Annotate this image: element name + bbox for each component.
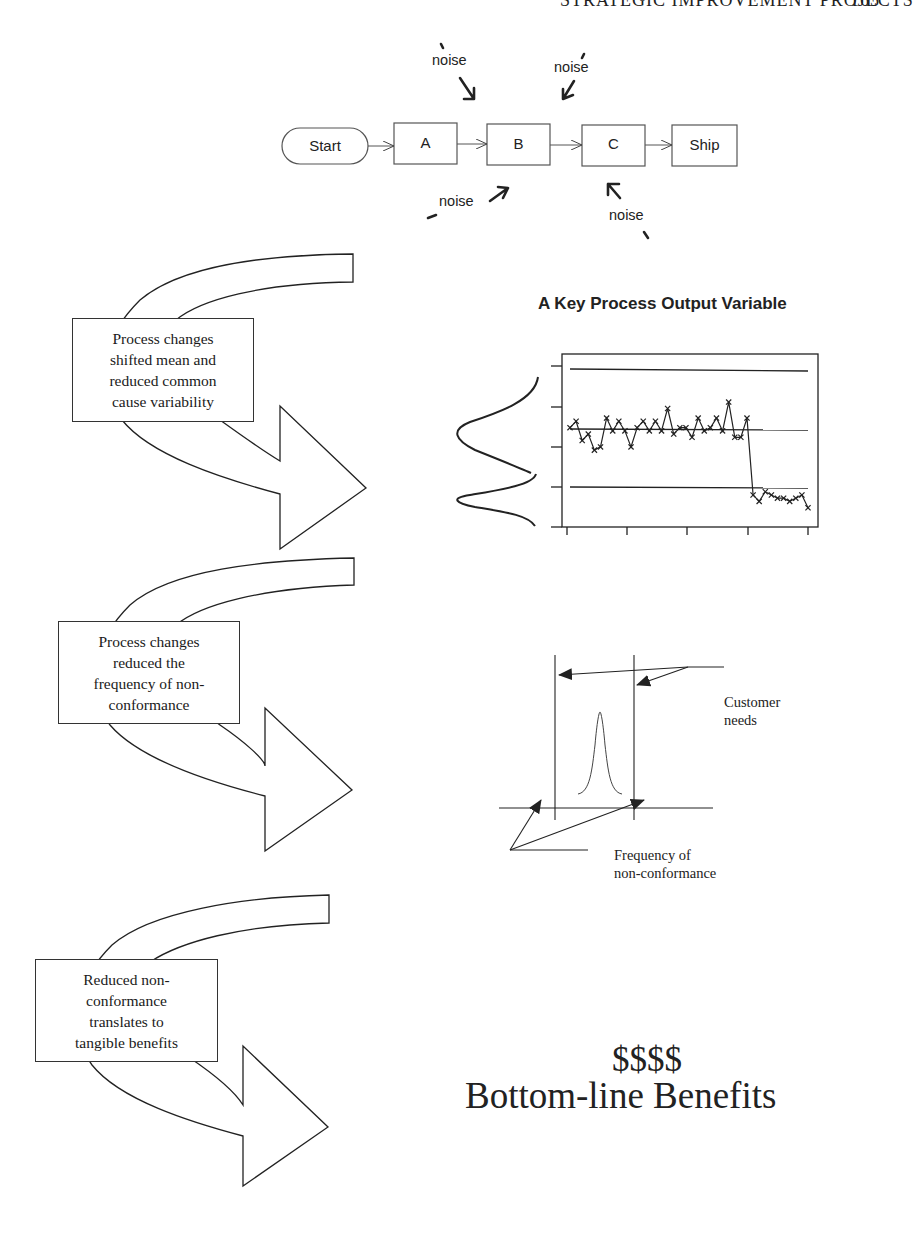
callout-line: Process changes xyxy=(109,328,216,349)
callout-line: reduced the xyxy=(93,652,204,673)
label-line: Customer xyxy=(724,693,780,711)
distribution-after-icon xyxy=(457,474,536,526)
x-axis-ticks xyxy=(567,527,808,535)
noise-label: noise xyxy=(439,193,474,209)
label-line: needs xyxy=(724,711,780,729)
distribution-before-icon xyxy=(457,377,538,473)
label-line: non-conformance xyxy=(614,864,716,882)
noise-label: noise xyxy=(609,207,644,223)
noise-label: noise xyxy=(432,52,467,68)
stage-1-callout: Process changes shifted mean and reduced… xyxy=(72,318,254,422)
customer-needs-label: Customer needs xyxy=(724,693,780,729)
callout-line: reduced common xyxy=(109,370,216,391)
node-ship-label: Ship xyxy=(672,136,737,153)
chart-title: A Key Process Output Variable xyxy=(538,294,787,314)
frequency-label: Frequency of non-conformance xyxy=(614,846,716,882)
callout-line: frequency of non- xyxy=(93,673,204,694)
node-start-label: Start xyxy=(282,137,368,154)
callout-line: Reduced non- xyxy=(75,969,178,990)
bottom-line-benefits: Bottom-line Benefits xyxy=(465,1074,776,1117)
capability-diagram xyxy=(499,655,724,850)
callout-line: translates to xyxy=(75,1011,178,1032)
node-c-label: C xyxy=(582,135,645,152)
noise-label: noise xyxy=(554,59,589,75)
narrow-distribution-icon xyxy=(578,712,622,794)
callout-line: shifted mean and xyxy=(109,349,216,370)
node-a-label: A xyxy=(394,134,457,151)
stage-3-callout: Reduced non- conformance translates to t… xyxy=(35,959,218,1062)
callout-line: Process changes xyxy=(93,631,204,652)
lower-control-limit xyxy=(570,487,808,488)
callout-line: tangible benefits xyxy=(75,1032,178,1053)
label-line: Frequency of xyxy=(614,846,716,864)
center-line xyxy=(570,429,808,430)
control-chart xyxy=(457,354,818,535)
data-point-markers xyxy=(567,399,810,510)
stage-2-callout: Process changes reduced the frequency of… xyxy=(58,621,240,724)
callout-line: conformance xyxy=(93,694,204,715)
callout-line: cause variability xyxy=(109,391,216,412)
callout-line: conformance xyxy=(75,990,178,1011)
upper-control-limit xyxy=(570,369,808,371)
y-axis-ticks xyxy=(551,366,562,527)
node-b-label: B xyxy=(487,135,550,152)
